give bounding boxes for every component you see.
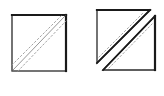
half-square-triangle-diagram	[0, 0, 164, 96]
stitch-dashed-line	[18, 21, 66, 71]
triangle-cut-edge-heavy	[97, 10, 150, 63]
diagram-canvas	[0, 0, 164, 96]
stitch-dashed-line	[12, 16, 61, 65]
diagonal-seam-line	[13, 16, 65, 70]
split-square-figure	[97, 10, 155, 70]
whole-square-figure	[12, 15, 66, 71]
triangle-cut-edge-heavy	[103, 16, 155, 70]
